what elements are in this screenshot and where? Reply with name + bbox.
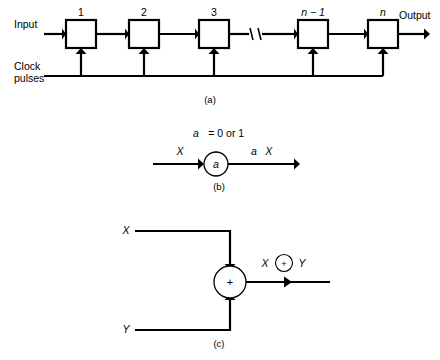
adder-output-label: X + Y <box>260 255 306 272</box>
adder-input-top-label: X <box>121 224 130 236</box>
output-label: Output <box>399 9 431 21</box>
stage-label-2: 2 <box>141 6 147 18</box>
input-label: Input <box>14 18 37 30</box>
multiplier-input-label: X <box>175 145 184 157</box>
adder-input-top-wire <box>135 231 230 264</box>
adder-input-bottom-label: Y <box>122 323 130 335</box>
stage-box-n[interactable] <box>368 20 398 48</box>
coefficient-condition-var: a <box>193 127 199 139</box>
figure-canvas: 1 2 3 n − 1 n Input Output <box>0 0 440 360</box>
break-symbol <box>250 28 261 40</box>
adder-input-bottom-wire <box>135 300 230 330</box>
stage-box-2[interactable] <box>129 20 159 48</box>
stage-label-1: 1 <box>78 6 84 18</box>
stage-box-1[interactable] <box>66 20 96 48</box>
panel-c: X Y + X + Y (c) <box>121 224 330 349</box>
coefficient-condition-rest: = 0 or 1 <box>208 127 244 139</box>
panel-a: 1 2 3 n − 1 n Input Output <box>14 6 431 105</box>
multiplier-output-label: a X <box>251 141 273 158</box>
panel-b: a = 0 or 1 X a a X (b) <box>153 123 300 192</box>
adder-node-symbol: + <box>227 276 233 288</box>
caption-b: (b) <box>213 181 225 192</box>
stage-label-n-minus-1: n − 1 <box>301 6 325 18</box>
adder-output-arrowhead <box>284 277 292 288</box>
multiplier-input-arrowhead <box>198 159 204 170</box>
stage-box-3[interactable] <box>199 20 229 48</box>
multiplier-output-var: X <box>264 145 273 157</box>
clock-label-line1: Clock <box>14 60 41 72</box>
multiplier-node-label: a <box>213 158 219 170</box>
multiplier-output-coef: a <box>251 145 257 157</box>
xor-operator-symbol: + <box>281 259 286 269</box>
stage-label-n: n <box>380 6 386 18</box>
caption-c: (c) <box>213 338 224 349</box>
clock-label-line2: pulses <box>14 72 44 84</box>
stage-label-3: 3 <box>211 6 217 18</box>
adder-output-left-operand: X <box>260 257 269 269</box>
coefficient-condition: a = 0 or 1 <box>193 123 244 140</box>
stage-box-n-minus-1[interactable] <box>298 20 328 48</box>
output-arrowhead <box>424 29 430 40</box>
multiplier-output-arrowhead <box>294 159 300 170</box>
caption-a: (a) <box>204 94 216 105</box>
adder-output-right-operand: Y <box>298 257 306 269</box>
